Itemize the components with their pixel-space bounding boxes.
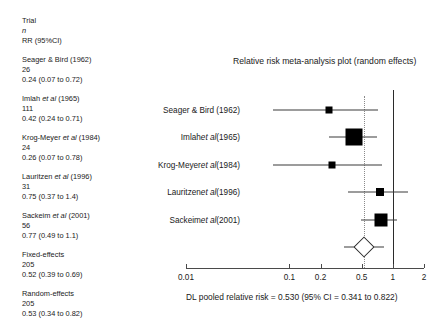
study-label-post: (1984) bbox=[216, 161, 240, 170]
study-label-post: (1996) bbox=[216, 188, 240, 197]
effect-estimate-marker bbox=[329, 162, 336, 169]
study-row-label: Krog-Meyer et al (1984) bbox=[0, 161, 240, 170]
x-axis-tick-label: 0.01 bbox=[178, 273, 194, 282]
study-row-label: Seager & Bird (1962) bbox=[0, 106, 240, 115]
study-label-etal: et al bbox=[201, 216, 216, 225]
x-axis-tick bbox=[393, 264, 394, 268]
x-axis-tick bbox=[186, 264, 187, 268]
effect-estimate-marker bbox=[345, 129, 362, 146]
study-label-pre: Sackeim bbox=[169, 216, 200, 225]
effect-estimate-marker bbox=[325, 107, 332, 114]
study-row-label: Imlah et al (1965) bbox=[0, 133, 240, 142]
study-label-post: (1965) bbox=[216, 133, 240, 142]
x-axis-tick-label: 0.5 bbox=[356, 273, 367, 282]
study-label-pre: Imlah bbox=[181, 133, 201, 142]
study-label-pre: Lauritzen bbox=[167, 188, 201, 197]
x-axis-tick bbox=[289, 264, 290, 268]
study-row-label: Lauritzen et al (1996) bbox=[0, 188, 240, 197]
x-axis-tick-label: 1 bbox=[391, 273, 396, 282]
x-axis-tick bbox=[362, 264, 363, 268]
effect-estimate-marker bbox=[376, 188, 384, 196]
study-label-pre: Krog-Meyer bbox=[158, 161, 201, 170]
x-axis-tick-label: 0.2 bbox=[315, 273, 326, 282]
x-axis-tick bbox=[321, 264, 322, 268]
study-label-etal: et al bbox=[201, 161, 216, 170]
study-label-post: (2001) bbox=[216, 216, 240, 225]
effect-estimate-marker bbox=[375, 214, 388, 227]
x-axis-tick-label: 2 bbox=[422, 273, 427, 282]
x-axis-line bbox=[186, 268, 424, 269]
summary-diamond bbox=[354, 236, 375, 257]
null-effect-line bbox=[393, 90, 394, 268]
forest-plot: Seager & Bird (1962)Imlah et al (1965)Kr… bbox=[0, 0, 439, 324]
x-axis-tick-label: 0.1 bbox=[284, 273, 295, 282]
x-axis-tick bbox=[424, 264, 425, 268]
pooled-result-caption: DL pooled relative risk = 0.530 (95% CI … bbox=[186, 292, 398, 302]
confidence-interval-line bbox=[273, 165, 381, 166]
study-row-label: Sackeim et al (2001) bbox=[0, 216, 240, 225]
study-label-etal: et al bbox=[201, 188, 216, 197]
study-label-etal: et al bbox=[201, 133, 216, 142]
